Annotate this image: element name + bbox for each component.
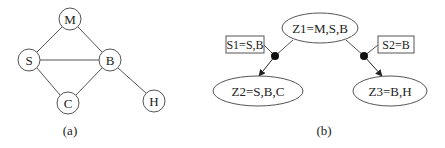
edge-M-B bbox=[78, 27, 102, 52]
clique-Z2-label: Z2=S,B,C bbox=[232, 84, 285, 99]
separator-S2-label: S2=B bbox=[382, 38, 409, 52]
node-C-label: C bbox=[64, 96, 73, 111]
separator-S1-dot bbox=[271, 52, 279, 60]
edge-S-C bbox=[37, 68, 60, 95]
clique-Z3-label: Z3=B,H bbox=[368, 84, 411, 99]
node-B: B bbox=[99, 49, 121, 71]
node-H: H bbox=[143, 90, 165, 112]
node-S-label: S bbox=[25, 53, 32, 68]
edge-S2-Z3 bbox=[364, 56, 382, 76]
clique-Z2: Z2=S,B,C bbox=[213, 76, 303, 106]
caption-b: (b) bbox=[316, 123, 331, 138]
separator-S2: S2=B bbox=[378, 36, 414, 53]
edge-M-S bbox=[37, 27, 62, 52]
clique-Z1-label: Z1=M,S,B bbox=[292, 21, 348, 36]
panel-a-graph: M S B C H (a) bbox=[18, 8, 165, 138]
clique-Z3: Z3=B,H bbox=[353, 76, 427, 106]
panel-b-junction-tree: S1=S,B S2=B Z1=M,S,B Z2=S,B,C Z3=B,H (b) bbox=[213, 13, 427, 138]
caption-a: (a) bbox=[63, 123, 77, 138]
separator-S1-label: S1=S,B bbox=[226, 38, 263, 52]
diagram-canvas: M S B C H (a) S1= bbox=[0, 0, 445, 148]
node-S: S bbox=[18, 49, 40, 71]
node-B-label: B bbox=[106, 53, 115, 68]
node-C: C bbox=[57, 92, 79, 114]
node-H-label: H bbox=[149, 94, 158, 109]
separator-S1: S1=S,B bbox=[226, 36, 264, 53]
edge-C-B bbox=[76, 68, 102, 95]
clique-Z1: Z1=M,S,B bbox=[282, 13, 358, 43]
separator-S2-dot bbox=[360, 52, 368, 60]
node-M: M bbox=[59, 8, 81, 30]
node-M-label: M bbox=[64, 12, 76, 27]
edge-B-H bbox=[118, 68, 146, 93]
